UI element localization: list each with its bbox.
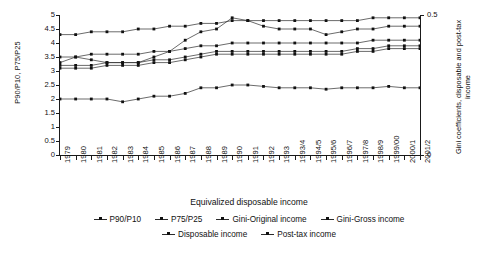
legend-label: P75/P25 — [171, 215, 202, 224]
data-point-marker — [340, 30, 343, 33]
data-point-marker — [168, 95, 171, 98]
data-point-marker — [372, 50, 375, 53]
y-tick-label-left: 0.5 — [15, 136, 55, 145]
data-point-marker — [403, 44, 406, 47]
x-tick — [248, 156, 249, 160]
data-point-marker — [153, 56, 156, 59]
data-point-marker — [325, 42, 328, 45]
data-point-marker — [215, 86, 218, 89]
data-point-marker — [372, 47, 375, 50]
data-point-marker — [387, 16, 390, 19]
data-point-marker — [278, 42, 281, 45]
y-axis-right-title-wrap: Gini coefficients, disposable and post-t… — [432, 10, 494, 160]
data-point-marker — [356, 86, 359, 89]
data-point-marker — [199, 56, 202, 59]
data-point-marker — [309, 86, 312, 89]
y-tick-left — [56, 29, 59, 30]
y-tick-left — [56, 99, 59, 100]
y-tick-left — [56, 113, 59, 114]
legend-row-2: Disposable incomePost-tax income — [0, 227, 498, 242]
x-tick — [138, 156, 139, 160]
legend-marker-icon — [261, 231, 274, 239]
data-point-marker — [90, 67, 93, 70]
data-point-marker — [372, 86, 375, 89]
x-tick — [357, 156, 358, 160]
y-tick-left — [56, 127, 59, 128]
data-point-marker — [419, 44, 420, 47]
legend-item[interactable]: Post-tax income — [261, 228, 336, 242]
data-point-marker — [325, 50, 328, 53]
data-point-marker — [74, 56, 77, 59]
data-point-marker — [293, 53, 296, 56]
data-point-marker — [419, 39, 420, 42]
data-point-marker — [278, 19, 281, 22]
y-tick-label-right: 0.5 — [427, 10, 457, 19]
y-tick-left — [56, 43, 59, 44]
y-tick-label-left: 5 — [15, 10, 55, 19]
data-point-marker — [168, 25, 171, 28]
data-point-marker — [184, 56, 187, 59]
x-tick — [326, 156, 327, 160]
data-point-marker — [106, 30, 109, 33]
x-tick — [295, 156, 296, 160]
data-point-marker — [60, 61, 61, 64]
data-point-marker — [137, 64, 140, 67]
y-tick-label-left: 3.5 — [15, 52, 55, 61]
data-point-marker — [74, 64, 77, 67]
chart-page: P90/P10, P75/P25 Gini coefficients, disp… — [0, 0, 498, 256]
data-point-marker — [262, 25, 265, 28]
data-point-marker — [90, 64, 93, 67]
data-point-marker — [184, 25, 187, 28]
data-point-marker — [60, 33, 61, 36]
data-point-marker — [60, 67, 61, 70]
legend-item[interactable]: Gini-Gross income — [321, 213, 405, 227]
data-point-marker — [372, 28, 375, 31]
y-tick-label-left: 2 — [15, 94, 55, 103]
data-point-marker — [60, 56, 61, 59]
data-point-marker — [121, 61, 124, 64]
legend-row-1: P90/P10P75/P25Gini-Original incomeGini-G… — [0, 212, 498, 227]
data-point-marker — [137, 61, 140, 64]
data-point-marker — [309, 50, 312, 53]
data-point-marker — [231, 19, 234, 22]
legend-item[interactable]: P90/P10 — [94, 213, 141, 227]
data-point-marker — [215, 22, 218, 25]
y-tick-left — [56, 57, 59, 58]
data-point-marker — [121, 30, 124, 33]
data-point-marker — [199, 53, 202, 56]
data-point-marker — [325, 88, 328, 91]
data-point-marker — [106, 53, 109, 56]
series-2 — [60, 84, 420, 104]
legend-marker-icon — [216, 216, 229, 224]
data-point-marker — [309, 53, 312, 56]
data-point-marker — [309, 19, 312, 22]
data-point-marker — [246, 84, 249, 87]
x-tick — [185, 156, 186, 160]
x-tick — [263, 156, 264, 160]
legend-item[interactable]: P75/P25 — [155, 213, 202, 227]
x-tick-label: 2001/2 — [423, 140, 432, 163]
data-point-marker — [231, 42, 234, 45]
data-point-marker — [325, 19, 328, 22]
y-tick-left — [56, 15, 59, 16]
x-tick — [389, 156, 390, 160]
data-point-marker — [74, 98, 77, 101]
x-tick — [373, 156, 374, 160]
data-point-marker — [293, 50, 296, 53]
data-point-marker — [199, 44, 202, 47]
chart-caption: Equivalized disposable income — [0, 197, 498, 207]
data-point-marker — [262, 85, 265, 88]
data-point-marker — [387, 39, 390, 42]
data-point-marker — [90, 53, 93, 56]
legend-item[interactable]: Gini-Original income — [216, 213, 306, 227]
data-point-marker — [293, 42, 296, 45]
data-point-marker — [246, 19, 249, 22]
data-point-marker — [403, 47, 406, 50]
data-point-marker — [184, 47, 187, 50]
y-tick-label-left: 2.5 — [15, 80, 55, 89]
data-point-marker — [325, 53, 328, 56]
data-point-marker — [340, 53, 343, 56]
legend-item[interactable]: Disposable income — [162, 228, 247, 242]
series-line — [60, 18, 420, 35]
legend-marker-icon — [94, 216, 107, 224]
